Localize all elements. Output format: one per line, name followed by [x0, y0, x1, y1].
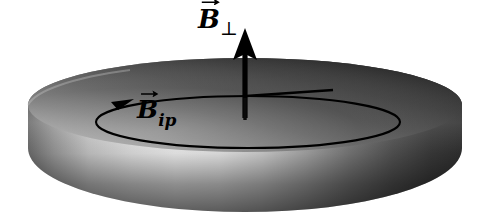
disk-field-diagram — [0, 0, 484, 224]
vector-arrow-icon — [201, 0, 220, 5]
label-b-in-plane: B ip — [137, 97, 177, 122]
label-b-perpendicular: B ⊥ — [198, 6, 238, 32]
b-perp-subscript: ⊥ — [220, 19, 238, 38]
b-ip-subscript: ip — [158, 112, 176, 129]
b-perp-base-letter: B — [198, 6, 220, 32]
b-ip-base-letter: B — [137, 97, 158, 122]
vector-arrow-icon — [140, 89, 158, 97]
b-perp-symbol-stack: B — [198, 6, 220, 32]
figure-canvas: B ⊥ B ip — [0, 0, 484, 224]
b-ip-symbol-stack: B — [137, 97, 158, 122]
